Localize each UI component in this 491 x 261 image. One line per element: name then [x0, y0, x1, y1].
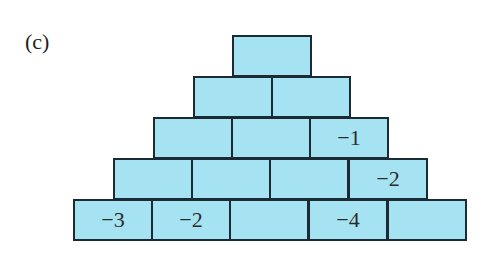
brick-r4-c3: −4 [308, 199, 388, 241]
brick-r3-c2 [269, 158, 349, 200]
brick-r1-c1 [271, 76, 351, 118]
brick-r3-c0 [113, 158, 193, 200]
brick-r3-c1 [191, 158, 271, 200]
brick-r3-c3: −2 [348, 158, 428, 200]
brick-r4-c1: −2 [151, 199, 231, 241]
brick-r4-c2 [229, 199, 309, 241]
brick-r0-c0 [232, 35, 312, 77]
brick-r1-c0 [193, 76, 273, 118]
brick-r2-c0 [153, 117, 233, 159]
brick-r4-c4 [387, 199, 467, 241]
brick-r2-c1 [231, 117, 311, 159]
brick-r4-c0: −3 [73, 199, 153, 241]
part-label: (c) [25, 29, 49, 55]
brick-r2-c2: −1 [309, 117, 389, 159]
